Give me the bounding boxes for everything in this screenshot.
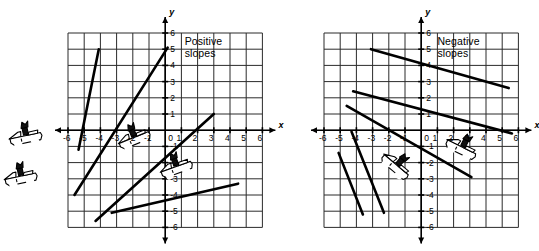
y-tick-label: -2	[426, 159, 434, 168]
callout-positive-slopes: Positive slopes	[185, 35, 223, 60]
y-tick-label: 4	[426, 61, 431, 70]
callout-line-1: Positive	[185, 35, 223, 47]
y-tick-label: -6	[426, 223, 434, 232]
x-tick-label: -6	[319, 134, 327, 143]
coordinate-plane-negative	[268, 0, 536, 251]
x-tick-label: 5	[497, 134, 502, 143]
coordinate-plane-positive	[0, 0, 268, 251]
y-tick-label: 1	[170, 110, 175, 119]
y-tick-label: -1	[426, 142, 434, 151]
y-tick-label: -2	[170, 159, 178, 168]
y-tick-label: 4	[170, 61, 175, 70]
x-tick-label: 6	[513, 134, 518, 143]
x-axis-label: x	[534, 120, 539, 130]
x-tick-label: 5	[241, 134, 246, 143]
callout-line-2: slopes	[437, 47, 479, 59]
y-tick-label: 5	[426, 45, 431, 54]
car-outside-lower-icon	[1, 159, 38, 189]
y-tick-label: 3	[170, 78, 175, 87]
y-tick-label: -5	[426, 207, 434, 216]
x-tick-label: -4	[351, 134, 359, 143]
x-tick-label: 2	[193, 134, 198, 143]
y-tick-label: -1	[170, 142, 178, 151]
x-tick-label: 3	[209, 134, 214, 143]
y-tick-label: -5	[170, 207, 178, 216]
y-tick-label: -4	[170, 191, 178, 200]
car-on-steep-line-icon	[377, 143, 418, 183]
x-tick-label: -2	[128, 134, 136, 143]
x-tick-label: -5	[79, 134, 87, 143]
x-tick-label: -1	[400, 134, 408, 143]
x-tick-label: 3	[465, 134, 470, 143]
x-tick-label: -3	[112, 134, 120, 143]
origin-label: 0	[168, 134, 173, 143]
y-tick-label: -4	[426, 191, 434, 200]
y-tick-label: 2	[170, 94, 175, 103]
callout-line-1: Negative	[437, 35, 479, 47]
x-tick-label: -5	[335, 134, 343, 143]
x-tick-label: -3	[368, 134, 376, 143]
panel-negative-slopes: Negative slopes -6-5-4-3-2-1123456654321…	[268, 0, 536, 251]
x-tick-label: -4	[95, 134, 103, 143]
slope-line-steep-line	[74, 48, 167, 195]
x-tick-label: -1	[144, 134, 152, 143]
y-tick-label: 1	[426, 110, 431, 119]
y-axis-label: y	[169, 7, 174, 17]
y-axis-label: y	[425, 7, 430, 17]
x-tick-label: 4	[481, 134, 486, 143]
panel-positive-slopes: Positive slopes -6-5-4-3-2-1123456654321…	[0, 0, 268, 251]
plot-positive-slopes	[0, 0, 268, 251]
x-tick-label: 6	[257, 134, 262, 143]
y-tick-label: -6	[170, 223, 178, 232]
callout-line-2: slopes	[185, 47, 223, 59]
x-tick-label: -6	[63, 134, 71, 143]
x-tick-label: -2	[384, 134, 392, 143]
callout-negative-slopes: Negative slopes	[437, 35, 479, 60]
y-tick-label: 6	[426, 29, 431, 38]
origin-label: 0	[424, 134, 429, 143]
x-tick-label: 2	[449, 134, 454, 143]
x-tick-label: 4	[225, 134, 230, 143]
y-tick-label: 3	[426, 78, 431, 87]
y-tick-label: 6	[170, 29, 175, 38]
y-tick-label: -3	[170, 175, 178, 184]
y-tick-label: 5	[170, 45, 175, 54]
car-outside-upper-icon	[6, 119, 43, 149]
plot-negative-slopes	[268, 0, 536, 251]
y-tick-label: -3	[426, 175, 434, 184]
y-tick-label: 2	[426, 94, 431, 103]
